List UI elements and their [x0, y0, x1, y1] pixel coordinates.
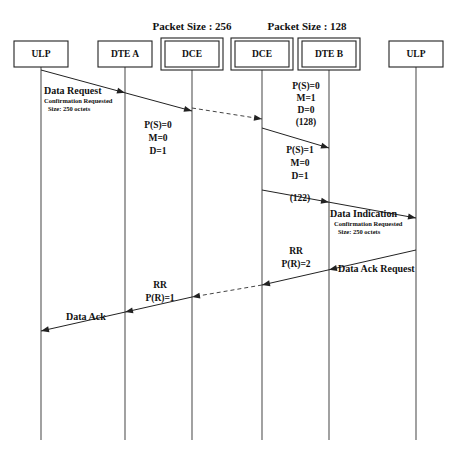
parameter-line-ps0-left-2: D=1	[149, 146, 166, 156]
participant-label-dte-a: DTE A	[111, 49, 139, 59]
message-label-dce-right-to-ulp-right-1: Confirmation Requested	[334, 220, 403, 227]
participant-ulp-right[interactable]: ULP	[389, 41, 443, 67]
message-dce-to-dce-2	[192, 285, 262, 299]
parameter-block-ps1-right: P(S)=1M=0D=1(122)	[286, 145, 314, 204]
parameter-line-ps0-right-3: (128)	[296, 117, 317, 128]
participant-dte-a[interactable]: DTE A	[98, 41, 152, 67]
parameter-line-rr-pr1-1: P(R)=1	[145, 293, 174, 304]
parameter-line-ps1-right-3: (122)	[290, 193, 311, 204]
message-data-request: Data RequestConfirmation RequestedSize: …	[41, 70, 192, 112]
parameter-line-ps1-right-2: D=1	[291, 171, 308, 181]
participant-label-dce-right: DCE	[252, 49, 272, 59]
message-label-data-request-1: Confirmation Requested	[44, 97, 113, 104]
participant-label-ulp-right: ULP	[407, 49, 426, 59]
arrowhead-data-ack-request	[262, 280, 270, 286]
parameter-line-ps0-right-2: D=0	[297, 105, 314, 115]
message-label-dce-right-to-ulp-right-0: Data Indication	[330, 208, 397, 219]
arrowhead-dce-to-dce-1	[254, 115, 262, 121]
arrowhead-dce-right-to-dte-b-1	[320, 143, 329, 149]
parameter-block-rr-pr2: RRP(R)=2	[281, 246, 310, 270]
sequence-diagram-svg: Packet Size : 256Packet Size : 128 Data …	[0, 0, 455, 459]
parameter-block-ps0-left: P(S)=0M=0D=1	[144, 120, 172, 156]
message-label-dce-right-to-ulp-right-2: Size: 250 octets	[338, 228, 381, 235]
arrowhead-mid-data-ack-request	[329, 265, 337, 271]
message-label-data-request-2: Size: 250 octets	[48, 105, 91, 112]
parameter-labels-layer: P(S)=0M=0D=1P(S)=0M=1D=0(128)P(S)=1M=0D=…	[144, 81, 320, 304]
message-label-data-ack-request-0: Data Ack Request	[338, 263, 415, 274]
parameter-line-rr-pr1-0: RR	[153, 280, 167, 290]
arrowhead-data-ack	[41, 326, 49, 332]
message-label-data-request-0: Data Request	[44, 85, 102, 96]
arrowhead-mid-data-ack	[125, 307, 133, 313]
parameter-line-ps0-left-1: M=0	[148, 133, 167, 143]
message-line-dce-to-dce-1	[192, 108, 262, 119]
arrowhead-mid-dce-right-to-ulp-right	[321, 198, 329, 204]
lifelines-layer	[41, 67, 416, 440]
message-dce-right-to-ulp-right: Data IndicationConfirmation RequestedSiz…	[262, 190, 416, 235]
parameter-line-ps1-right-0: P(S)=1	[286, 145, 314, 156]
parameter-block-ps0-right: P(S)=0M=1D=0(128)	[292, 81, 320, 128]
messages-layer: Data RequestConfirmation RequestedSize: …	[41, 70, 416, 332]
participant-dte-b[interactable]: DTE B	[298, 38, 360, 70]
message-dce-to-dce-1	[192, 108, 262, 121]
parameter-block-rr-pr1: RRP(R)=1	[145, 280, 174, 304]
participant-dce-left[interactable]: DCE	[161, 38, 223, 70]
participant-label-dte-b: DTE B	[315, 49, 344, 59]
participant-ulp-left[interactable]: ULP	[14, 41, 68, 67]
participant-label-dce-left: DCE	[182, 49, 202, 59]
participant-label-ulp-left: ULP	[32, 49, 51, 59]
message-label-data-ack-0: Data Ack	[66, 311, 106, 322]
arrowhead-dce-to-dce-2	[192, 293, 200, 299]
sequence-diagram-canvas: Packet Size : 256Packet Size : 128 Data …	[0, 0, 455, 459]
message-line-dce-to-dce-2	[192, 285, 262, 297]
parameter-line-ps0-right-0: P(S)=0	[292, 81, 320, 92]
arrowhead-data-request	[183, 106, 192, 112]
packet-size-label-0: Packet Size : 256	[152, 20, 232, 32]
parameter-line-ps0-right-1: M=1	[296, 93, 315, 103]
participant-boxes-layer: ULPDTE ADCEDCEDTE BULP	[14, 38, 443, 70]
participant-dce-right[interactable]: DCE	[231, 38, 293, 70]
packet-size-label-1: Packet Size : 128	[267, 20, 347, 32]
arrowhead-mid-data-request	[116, 88, 125, 94]
parameter-line-ps0-left-0: P(S)=0	[144, 120, 172, 131]
packet-size-group-labels: Packet Size : 256Packet Size : 128	[152, 20, 347, 32]
parameter-line-ps1-right-1: M=0	[290, 158, 309, 168]
arrowhead-dce-right-to-ulp-right	[408, 214, 416, 220]
parameter-line-rr-pr2-1: P(R)=2	[281, 259, 310, 270]
parameter-line-rr-pr2-0: RR	[289, 246, 303, 256]
